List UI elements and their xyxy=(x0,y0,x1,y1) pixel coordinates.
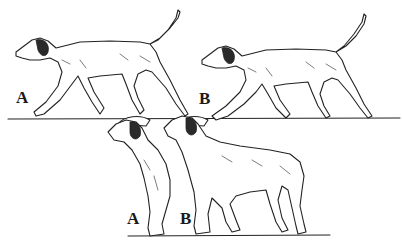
label-trotting-b: B xyxy=(199,90,210,107)
label-standing-b: B xyxy=(180,210,191,227)
label-trotting-a: A xyxy=(16,89,28,106)
trotting-dog-b xyxy=(202,14,372,120)
dog-gait-illustration: A B A B xyxy=(0,0,402,242)
label-standing-a: A xyxy=(127,210,139,227)
illustration-drawing xyxy=(0,0,402,242)
trotting-dog-a xyxy=(16,10,188,116)
